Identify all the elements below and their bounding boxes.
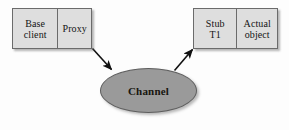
- client-node-group: Base client Proxy: [12, 8, 92, 49]
- node-channel-label: Channel: [128, 85, 169, 97]
- node-stub-line1: Stub: [206, 18, 225, 29]
- node-base-client-line2: client: [24, 29, 47, 40]
- node-proxy-label: Proxy: [63, 23, 87, 34]
- node-channel: Channel: [100, 68, 197, 113]
- node-stub-t1-label: Stub T1: [206, 18, 225, 40]
- node-base-client-label: Base client: [24, 18, 47, 40]
- server-node-group: Stub T1 Actual object: [193, 8, 278, 49]
- node-actual-object-line2: object: [245, 29, 270, 40]
- arrow-proxy-to-channel: [93, 49, 112, 70]
- diagram-canvas: Base client Proxy Stub T1 Actual object …: [0, 0, 289, 130]
- node-actual-object-line1: Actual: [244, 18, 271, 29]
- node-base-client-line1: Base: [25, 18, 45, 29]
- arrow-channel-to-stub: [175, 50, 193, 71]
- node-stub-line2: T1: [210, 29, 221, 40]
- node-actual-object-label: Actual object: [244, 18, 271, 40]
- node-proxy: Proxy: [57, 9, 91, 48]
- node-actual-object: Actual object: [236, 9, 277, 48]
- node-base-client: Base client: [13, 9, 57, 48]
- node-stub-t1: Stub T1: [194, 9, 236, 48]
